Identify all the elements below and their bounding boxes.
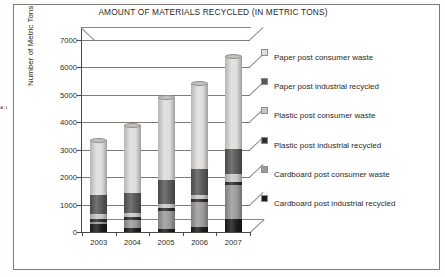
bar-segment — [158, 211, 175, 229]
gridline — [82, 40, 250, 41]
bar-segment — [191, 195, 208, 199]
legend-swatch-icon — [261, 195, 268, 202]
x-axis-tick — [149, 232, 150, 236]
bar-segment — [124, 193, 141, 214]
legend-item[interactable]: Cardboard post consumer waste — [261, 163, 423, 183]
x-axis-tick — [216, 232, 217, 236]
legend-swatch-icon — [261, 166, 268, 173]
bar-top-cap — [158, 95, 175, 100]
y-axis-tick — [77, 122, 82, 123]
plot-area: 20032004200520062007 — [82, 40, 250, 232]
legend-item[interactable]: Paper post consumer waste — [261, 46, 423, 66]
x-axis-tick — [82, 232, 83, 236]
chart-title: AMOUNT OF MATERIALS RECYCLED (IN METRIC … — [18, 7, 408, 17]
bar-column — [90, 140, 107, 232]
legend-item-label: Plastic post consumer waste — [274, 111, 375, 120]
legend-swatch-icon — [261, 78, 268, 85]
bar-segment — [124, 228, 141, 232]
bar-segment — [158, 180, 175, 204]
bar-column — [124, 125, 141, 232]
bar-segment — [90, 195, 107, 215]
bar-segment — [124, 213, 141, 217]
y-axis-tick-label: 2000 — [60, 173, 77, 182]
y-axis-tick — [77, 95, 82, 96]
bar-segment — [124, 125, 141, 192]
x-axis-tick-label: 2003 — [90, 238, 107, 247]
chart-page: ■ : ■ ▮ ▪ ┆ ▪ ┆ ▪ ╷ ▪ ┊ ▫ ╎ ▪ ┆ ▫ ┊ ▪ ╷ … — [0, 0, 445, 277]
bar-segment — [191, 227, 208, 232]
bar-segment — [191, 199, 208, 202]
bar-top-cap — [124, 123, 141, 128]
bar-segment — [225, 174, 242, 181]
bar-segment — [225, 185, 242, 219]
legend-item[interactable]: Plastic post industrial recycled — [261, 134, 423, 154]
legend-item[interactable]: Cardboard post industrial recycled — [261, 192, 423, 212]
y-axis-tick — [77, 205, 82, 206]
legend-item-label: Paper post consumer waste — [274, 53, 373, 62]
bar-segment — [90, 140, 107, 195]
plot-back-top-edge — [81, 27, 251, 28]
legend-item-label: Cardboard post consumer waste — [274, 170, 390, 179]
y-axis-tick — [77, 67, 82, 68]
legend-swatch-icon — [261, 49, 268, 56]
legend-item[interactable]: Paper post industrial recycled — [261, 75, 423, 95]
bar-segment — [191, 202, 208, 227]
legend-swatch-icon — [261, 137, 268, 144]
legend-item-label: Plastic post industrial recycled — [274, 141, 381, 150]
bar-segment — [225, 56, 242, 149]
bar-top-cap — [90, 138, 107, 143]
y-axis-tick-label: 6000 — [60, 63, 77, 72]
bar-column — [191, 84, 208, 232]
bar-segment — [90, 224, 107, 232]
y-axis-tick — [77, 40, 82, 41]
legend-item[interactable]: Plastic post consumer waste — [261, 104, 423, 124]
y-axis-tick — [77, 177, 82, 178]
x-axis-tick — [250, 232, 251, 236]
x-axis-line — [81, 232, 251, 233]
bar-segment — [158, 98, 175, 181]
y-axis-labels: 01000200030004000500060007000 — [46, 40, 77, 232]
bar-segment — [225, 182, 242, 185]
y-axis-title: Number of Metric Tons — [26, 6, 35, 86]
y-axis-tick-label: 0 — [73, 228, 77, 237]
bar-segment — [90, 219, 107, 222]
y-axis-tick-label: 7000 — [60, 36, 77, 45]
y-axis-tick-label: 4000 — [60, 118, 77, 127]
x-axis-tick — [183, 232, 184, 236]
bar-column — [158, 98, 175, 232]
bar-column — [225, 56, 242, 232]
legend-item-label: Paper post industrial recycled — [274, 82, 379, 91]
bar-segment — [158, 208, 175, 211]
bar-segment — [124, 220, 141, 229]
bar-segment — [90, 222, 107, 224]
legend-swatch-icon — [261, 107, 268, 114]
legend-item-label: Cardboard post industrial recycled — [274, 199, 395, 208]
bar-segment — [124, 217, 141, 220]
chart-legend: Paper post consumer wastePaper post indu… — [261, 46, 423, 221]
y-axis-tick-label: 3000 — [60, 145, 77, 154]
bar-segment — [225, 149, 242, 174]
bar-segment — [158, 204, 175, 208]
bar-segment — [191, 169, 208, 195]
x-axis-tick-label: 2004 — [124, 238, 141, 247]
bar-segment — [225, 219, 242, 232]
x-axis-tick-label: 2005 — [158, 238, 175, 247]
bar-segment — [90, 214, 107, 218]
y-axis-tick — [77, 150, 82, 151]
x-axis-tick — [116, 232, 117, 236]
bar-segment — [191, 84, 208, 169]
bar-top-cap — [225, 54, 242, 59]
y-axis-line — [81, 27, 82, 233]
bar-segment — [158, 229, 175, 232]
x-axis-tick-label: 2006 — [191, 238, 208, 247]
page-edge-artifact: ■ : ■ ▮ ▪ ┆ ▪ ┆ ▪ ╷ ▪ ┊ ▫ ╎ ▪ ┆ ▫ ┊ ▪ ╷ … — [0, 104, 7, 274]
x-axis-tick-label: 2007 — [225, 238, 242, 247]
plot-top-corner-slant — [81, 27, 95, 40]
y-axis-tick-label: 5000 — [60, 90, 77, 99]
y-axis-tick-label: 1000 — [60, 200, 77, 209]
